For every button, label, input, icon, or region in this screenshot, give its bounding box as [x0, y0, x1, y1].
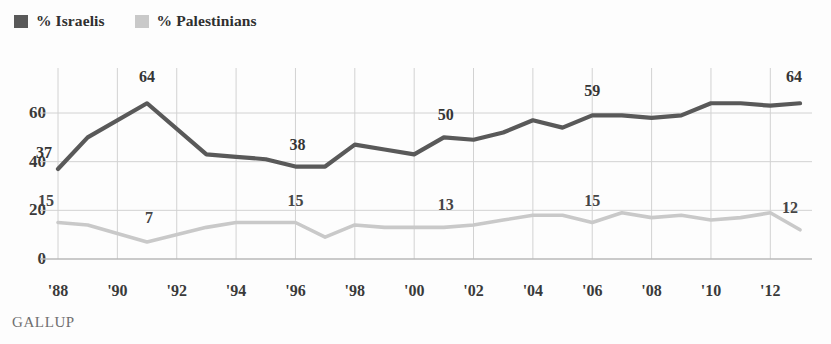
- x-tick-label: '12: [760, 282, 780, 300]
- plot-area: [0, 58, 831, 270]
- x-axis-labels: '88'90'92'94'96'98'00'02'04'06'08'10'12: [0, 282, 831, 308]
- x-tick-label: '08: [641, 282, 661, 300]
- data-point-label: 15: [584, 192, 600, 210]
- legend-swatch-palestinians: [135, 15, 149, 28]
- x-tick-label: '90: [107, 282, 127, 300]
- x-tick-label: '92: [166, 282, 186, 300]
- data-point-label: 50: [438, 106, 454, 124]
- legend-swatch-israelis: [14, 15, 28, 28]
- source-watermark: GALLUP: [12, 314, 75, 331]
- data-point-label: 37: [36, 144, 52, 162]
- x-tick-label: '06: [582, 282, 602, 300]
- legend-item-israelis: % Israelis: [14, 12, 105, 30]
- x-tick-label: '00: [404, 282, 424, 300]
- data-point-label: 64: [786, 68, 802, 86]
- x-tick-label: '02: [463, 282, 483, 300]
- x-tick-label: '10: [701, 282, 721, 300]
- data-point-label: 59: [584, 82, 600, 100]
- data-point-label: 15: [287, 192, 303, 210]
- legend-label-israelis: % Israelis: [36, 12, 105, 30]
- x-tick-label: '94: [226, 282, 246, 300]
- data-point-label: 64: [139, 68, 155, 86]
- chart-figure: % Israelis % Palestinians 0204060 '88'90…: [0, 0, 831, 344]
- data-point-label: 7: [145, 209, 153, 227]
- x-tick-label: '88: [48, 282, 68, 300]
- legend-label-palestinians: % Palestinians: [157, 12, 257, 30]
- data-point-label: 15: [38, 192, 54, 210]
- x-tick-label: '04: [523, 282, 543, 300]
- series-line-palestinians: [58, 213, 800, 242]
- legend-item-palestinians: % Palestinians: [135, 12, 257, 30]
- data-point-label: 13: [438, 196, 454, 214]
- x-tick-label: '98: [345, 282, 365, 300]
- x-tick-label: '96: [285, 282, 305, 300]
- chart-canvas: [0, 58, 831, 270]
- data-point-label: 12: [782, 199, 798, 217]
- data-point-label: 38: [289, 136, 305, 154]
- chart-legend: % Israelis % Palestinians: [14, 12, 257, 30]
